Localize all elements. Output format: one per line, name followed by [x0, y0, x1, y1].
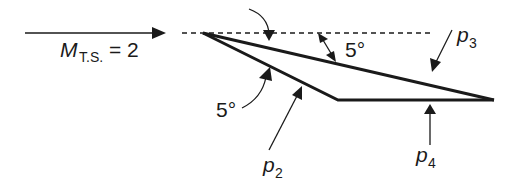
lower-angle-indicator — [242, 67, 272, 108]
p2-arrow — [269, 86, 302, 150]
svg-text:p: p — [262, 153, 275, 176]
freestream-mach-label: M T.S. = 2 — [60, 38, 139, 65]
svg-text:3: 3 — [469, 35, 477, 51]
svg-text:4: 4 — [428, 155, 436, 171]
lower-angle-label: 5° — [216, 98, 236, 121]
freestream-arrow — [25, 27, 166, 39]
p3-label: p 3 — [456, 23, 477, 51]
svg-text:p: p — [456, 23, 469, 46]
airfoil-diagram: M T.S. = 2 5° p 3 p 4 p 2 — [0, 0, 518, 190]
mach-symbol: M — [60, 38, 78, 61]
svg-text:p: p — [415, 143, 428, 166]
upper-angle-label: 5° — [345, 38, 365, 61]
mach-subscript: T.S. — [79, 49, 103, 65]
svg-text:2: 2 — [275, 165, 283, 181]
mach-value: = 2 — [109, 38, 139, 61]
p2-label: p 2 — [262, 153, 283, 181]
p4-arrow — [424, 104, 436, 145]
p4-label: p 4 — [415, 143, 436, 171]
upper-angle-indicator — [318, 33, 336, 62]
p3-arrow — [430, 30, 452, 72]
